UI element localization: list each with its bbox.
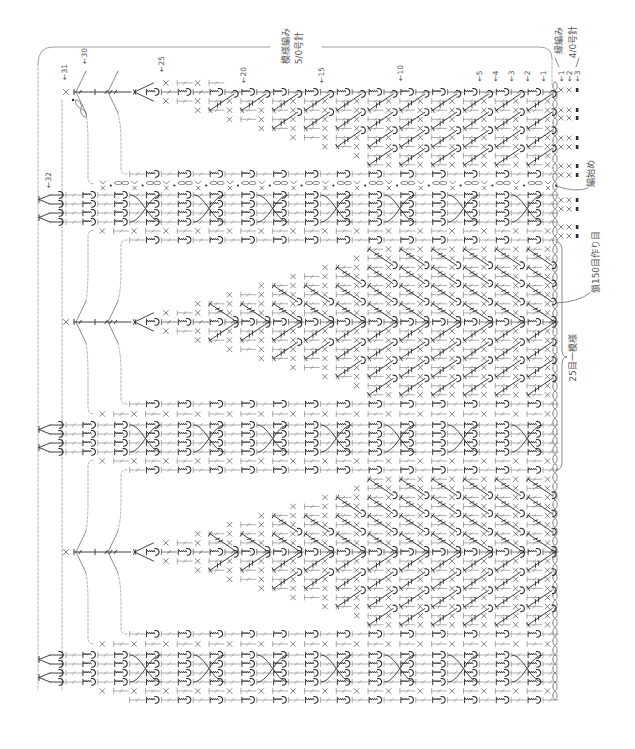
row-label-3: ←3 xyxy=(507,70,516,81)
row-label-25: ←25 xyxy=(157,56,166,72)
stitch-symbols xyxy=(38,47,590,703)
edging-slip-stitch-symbols xyxy=(576,88,579,238)
row-label-32: ←32 xyxy=(44,172,53,188)
long-stitch-symbols xyxy=(39,83,552,703)
row-label-10: ←10 xyxy=(396,65,405,81)
foundation-chain-label: 鎖150目作り目 xyxy=(590,231,601,293)
pattern-stitch-title: 模様編み xyxy=(280,28,291,64)
edging-needle-size: 4/0号針 xyxy=(567,26,578,58)
row-label-30: ←30 xyxy=(80,48,89,64)
pattern-needle-size: 5/0号針 xyxy=(293,32,304,64)
row-label-2: ←2 xyxy=(523,70,532,81)
edging-row-label-3: ←3 xyxy=(573,70,582,81)
row-label-20: ←20 xyxy=(239,67,248,83)
start-of-work-label: 編始め xyxy=(585,160,596,187)
pattern-repeat-label: 25目一模様 xyxy=(567,334,578,381)
slip-stitch-symbols xyxy=(72,99,557,187)
row-label-4: ←4 xyxy=(491,70,500,81)
row-label-31: ←31 xyxy=(60,64,69,80)
row-label-5: ←5 xyxy=(475,70,484,81)
crochet-chart: 模様編み 5/0号針 縁編み 4/0号針 編始め 鎖150目作り目 25目一模様… xyxy=(0,0,635,749)
edging-stitch-title: 縁編み xyxy=(553,27,564,54)
row-label-15: ←15 xyxy=(317,67,326,83)
row-label-1: ←1 xyxy=(539,70,548,81)
edging-row-number-labels: ←1←2←3 xyxy=(557,70,582,81)
